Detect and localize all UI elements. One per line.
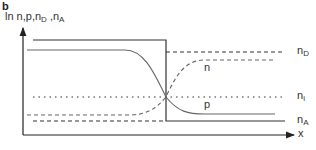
ni-label: ni xyxy=(297,89,305,103)
p-label: p xyxy=(204,98,210,110)
nd-step-line xyxy=(33,40,285,121)
nd-label: nD xyxy=(297,44,309,58)
n-label: n xyxy=(204,61,210,73)
x-axis-label: x xyxy=(298,127,304,139)
na-label: nA xyxy=(297,113,308,127)
pn-junction-diagram xyxy=(0,0,316,150)
